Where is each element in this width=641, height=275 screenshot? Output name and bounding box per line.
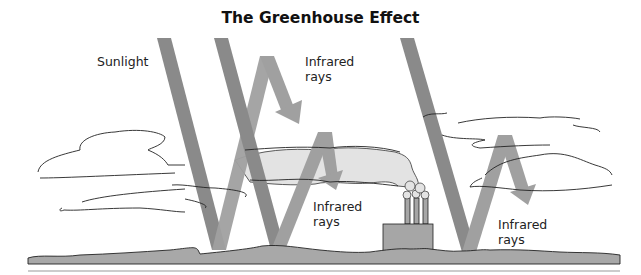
ground [28,245,620,264]
infrared-label-top: Infrared rays [305,54,354,84]
sunlight-beam-1 [157,38,226,250]
infrared-label-top-line2: rays [305,69,354,84]
factory [383,198,433,252]
infrared-label-right-line1: Infrared [498,217,547,232]
smokestack-2 [414,198,419,224]
infrared-label-right-line2: rays [498,232,547,247]
clouds-left [38,130,246,212]
infrared-beam-3-down [498,135,530,196]
infrared-label-top-line1: Infrared [305,54,354,69]
infrared-label-middle-line2: rays [313,214,362,229]
infrared-label-middle: Infrared rays [313,199,362,229]
infrared-label-middle-line1: Infrared [313,199,362,214]
sunlight-beam-3 [400,38,476,252]
sunlight-label: Sunlight [97,54,148,69]
smokestack-3 [423,198,428,224]
smokestack-1 [405,198,410,224]
factory-building [383,224,433,252]
infrared-label-right: Infrared rays [498,217,547,247]
